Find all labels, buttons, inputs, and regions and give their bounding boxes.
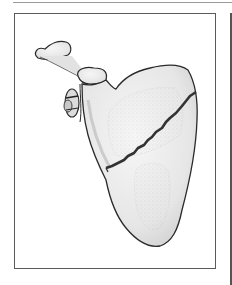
glenoid-fossa bbox=[64, 84, 81, 122]
scapula-body bbox=[82, 65, 197, 246]
scapula-illustration bbox=[0, 0, 232, 285]
